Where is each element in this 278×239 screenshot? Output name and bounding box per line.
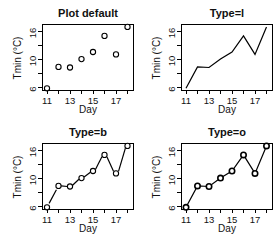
x-tick-label: 17: [111, 214, 122, 225]
y-tick-label: 6: [27, 205, 38, 210]
y-tick-label: 10: [166, 175, 177, 186]
data-point: [67, 184, 72, 189]
data-point: [102, 33, 107, 38]
y-tick-label: 10: [166, 56, 177, 67]
x-tick-label: 13: [65, 214, 76, 225]
data-point: [229, 168, 234, 173]
data-point: [113, 171, 118, 176]
data-point: [252, 171, 257, 176]
y-tick-labels: 16 10 6: [27, 28, 38, 92]
data-points: [183, 143, 269, 210]
x-tick-label: 15: [88, 95, 99, 106]
x-tick-label: 11: [42, 214, 52, 225]
y-tick-labels: 16 10 6: [27, 147, 38, 211]
panel-title: Type=b: [69, 126, 107, 138]
data-point: [56, 64, 61, 69]
x-tick-label: 11: [181, 214, 191, 225]
x-tick-label: 15: [227, 214, 238, 225]
data-point: [264, 143, 269, 148]
panel-type-b-canvas: Type=b Day Tmin (°C) 16 10 6 11 13 15 17: [0, 119, 139, 238]
data-line: [186, 27, 267, 88]
x-tick-label: 15: [227, 95, 238, 106]
data-point: [113, 52, 118, 57]
data-point: [79, 57, 84, 62]
panel-type-l-canvas: Type=l Day Tmin (°C) 16 10 6 11 13 15 17: [139, 0, 278, 119]
plot-frame: [181, 143, 272, 209]
x-tick-label: 17: [111, 95, 122, 106]
y-tick-label: 16: [27, 147, 38, 158]
data-point: [183, 205, 188, 210]
axis-ticks: [177, 150, 267, 213]
panel-type-o: Type=o Day Tmin (°C) 16 10 6 11 13 15 17: [139, 119, 278, 238]
y-tick-label: 16: [166, 147, 177, 158]
panel-title: Type=o: [208, 126, 246, 138]
plot-frame: [42, 24, 133, 90]
panel-title: Type=l: [210, 7, 244, 19]
panel-title: Plot default: [58, 7, 118, 19]
data-point: [90, 49, 95, 54]
data-point: [56, 183, 61, 188]
x-tick-label: 13: [65, 95, 76, 106]
data-point: [241, 152, 246, 157]
panel-type-o-canvas: Type=o Day Tmin (°C) 16 10 6 11 13 15 17: [139, 119, 278, 238]
data-point: [125, 143, 130, 148]
data-point: [102, 152, 107, 157]
data-points: [44, 24, 130, 91]
x-tick-label: 13: [204, 95, 215, 106]
figure-panel-grid: Plot default Day Tmin (°C) 16 10 6 11 13…: [0, 0, 278, 239]
y-tick-labels: 16 10 6: [166, 147, 177, 211]
data-point: [125, 24, 130, 29]
x-tick-label: 15: [88, 214, 99, 225]
data-point: [44, 205, 49, 210]
x-tick-label: 11: [42, 95, 52, 106]
y-tick-label: 6: [166, 205, 177, 210]
panel-type-l: Type=l Day Tmin (°C) 16 10 6 11 13 15 17: [139, 0, 278, 119]
axis-ticks: [177, 31, 267, 94]
data-point: [218, 175, 223, 180]
y-tick-labels: 16 10 6: [166, 28, 177, 92]
data-point: [195, 183, 200, 188]
panel-plot-default-canvas: Plot default Day Tmin (°C) 16 10 6 11 13…: [0, 0, 139, 119]
y-tick-label: 10: [27, 175, 38, 186]
data-point: [79, 176, 84, 181]
data-point: [90, 168, 95, 173]
y-axis-label: Tmin (°C): [12, 156, 23, 199]
y-axis-label: Tmin (°C): [151, 156, 162, 199]
y-axis-label: Tmin (°C): [151, 37, 162, 80]
y-tick-label: 6: [27, 86, 38, 91]
y-tick-label: 6: [166, 86, 177, 91]
data-point: [67, 65, 72, 70]
axis-ticks: [38, 31, 128, 94]
axis-ticks: [38, 150, 128, 213]
y-tick-label: 16: [27, 28, 38, 39]
data-points: [44, 143, 130, 210]
y-tick-label: 16: [166, 28, 177, 39]
panel-plot-default: Plot default Day Tmin (°C) 16 10 6 11 13…: [0, 0, 139, 119]
data-point: [44, 86, 49, 91]
y-axis-label: Tmin (°C): [12, 37, 23, 80]
x-tick-label: 17: [250, 214, 261, 225]
plot-frame: [42, 143, 133, 209]
panel-type-b: Type=b Day Tmin (°C) 16 10 6 11 13 15 17: [0, 119, 139, 238]
x-tick-label: 11: [181, 95, 191, 106]
x-tick-label: 17: [250, 95, 261, 106]
x-tick-label: 13: [204, 214, 215, 225]
y-tick-label: 10: [27, 56, 38, 67]
data-point: [206, 184, 211, 189]
plot-frame: [181, 24, 272, 90]
